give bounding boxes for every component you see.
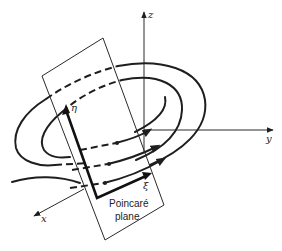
eta-arrow-icon [62,104,70,115]
xi-label: ξ [143,180,149,191]
trajectory-2 [108,147,156,164]
intersection-point-1 [115,141,119,145]
z-axis-label: z [147,9,154,20]
intersection-point-2 [107,162,111,166]
intersection-point-3 [103,181,107,185]
trajectory-1 [116,131,148,143]
orbit-middle [122,78,182,160]
trajectory-3-hidden [70,183,104,188]
eta-label: η [71,102,77,113]
plane-label-line1: Poincaré [109,198,149,209]
trajectory-1-hidden [80,143,116,150]
orbit-outer-hidden [46,66,118,99]
x-axis [34,189,84,216]
xi-arrow-icon [142,172,152,180]
y-axis-label: y [265,133,272,144]
orbit-inner [135,97,165,132]
poincare-plane [42,38,164,240]
x-axis-label: x [41,213,47,224]
orbit-trailing [12,177,80,183]
orbit-outer-hidden-2 [55,163,88,165]
poincare-section-diagram: z y x η ξ Poincaré plane [0,0,282,251]
plane-label-line2: plane [115,211,140,222]
orbit-middle-left [42,112,70,157]
